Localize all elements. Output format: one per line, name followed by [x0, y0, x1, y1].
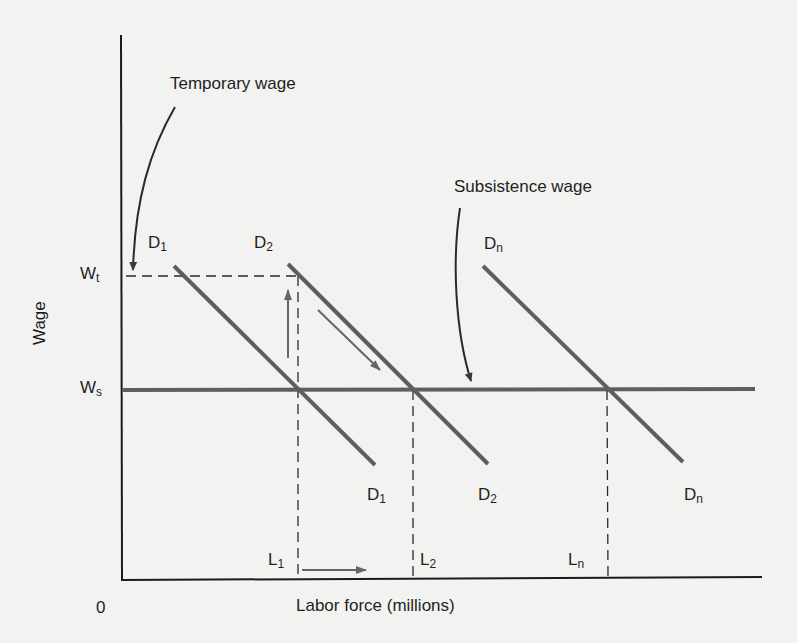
origin-label: 0 [96, 598, 105, 618]
x-axis [121, 577, 762, 580]
dn-top-label: Dn [484, 234, 503, 255]
demand-curve-dn [483, 266, 683, 462]
demand-curve-d1 [174, 266, 375, 465]
y-axis-label: Wage [30, 301, 50, 345]
d2-top-label: D2 [254, 233, 273, 254]
diagram: Temporary wage Subsistence wage Wt Ws Wa… [0, 0, 797, 643]
ln-label: Ln [568, 550, 584, 571]
d1-top-label: D1 [148, 233, 167, 254]
y-axis [121, 35, 122, 580]
d2-bottom-label: D2 [478, 485, 497, 506]
ln-dashed [607, 390, 608, 578]
l1-label: L1 [268, 550, 284, 571]
chart-canvas [0, 0, 797, 643]
ws-label: Ws [80, 378, 102, 399]
d1-bottom-label: D1 [367, 485, 386, 506]
x-axis-label: Labor force (millions) [296, 596, 455, 616]
subsistence-wage-arrow [456, 208, 471, 381]
dn-bottom-label: Dn [684, 485, 703, 506]
wage-fall-arrow [318, 310, 380, 370]
demand-curve-d2 [288, 264, 488, 464]
subsistence-wage-label: Subsistence wage [454, 177, 592, 197]
temporary-wage-label: Temporary wage [170, 74, 296, 94]
subsistence-wage-line [122, 389, 755, 390]
l2-label: L2 [420, 550, 436, 571]
wt-label: Wt [80, 264, 99, 285]
